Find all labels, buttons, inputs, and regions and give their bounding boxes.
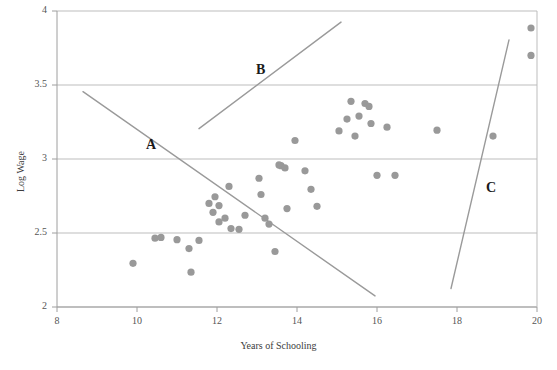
data-point [373, 172, 380, 179]
reference-line-label-b: B [256, 62, 265, 78]
x-axis-label: Years of Schooling [0, 340, 557, 351]
data-point [527, 52, 534, 59]
data-point [365, 103, 372, 110]
y-axis-label: Log Wage [15, 112, 26, 232]
data-point [313, 203, 320, 210]
data-point [433, 127, 440, 134]
data-point [271, 248, 278, 255]
chart-figure: Log Wage Years of Schooling 22.533.54810… [0, 0, 557, 370]
data-point [205, 200, 212, 207]
data-point [195, 237, 202, 244]
y-axis-label-container: Log Wage [2, 118, 22, 238]
data-point [255, 175, 262, 182]
data-point [283, 205, 290, 212]
data-point [221, 215, 228, 222]
data-point [185, 245, 192, 252]
reference-line-b [199, 22, 341, 129]
data-point [527, 24, 534, 31]
data-point [335, 127, 342, 134]
data-point [157, 234, 164, 241]
x-tick-label: 10 [117, 315, 157, 326]
y-tick-label: 3 [5, 152, 47, 163]
figure-caption [0, 361, 557, 370]
data-point [227, 225, 234, 232]
data-point [261, 215, 268, 222]
y-tick-label: 2 [5, 300, 47, 311]
data-point [367, 120, 374, 127]
data-point [225, 183, 232, 190]
data-point [187, 269, 194, 276]
data-point [291, 137, 298, 144]
x-tick-label: 18 [437, 315, 477, 326]
data-point [209, 209, 216, 216]
y-tick-label: 2.5 [5, 226, 47, 237]
data-point [351, 132, 358, 139]
data-point [391, 172, 398, 179]
reference-line-c [451, 40, 509, 289]
data-point [173, 236, 180, 243]
x-tick-label: 16 [357, 315, 397, 326]
x-tick-label: 8 [37, 315, 77, 326]
data-point [343, 115, 350, 122]
y-tick-label: 4 [5, 4, 47, 15]
data-point [215, 218, 222, 225]
data-point [355, 112, 362, 119]
data-point [129, 260, 136, 267]
data-point [235, 226, 242, 233]
data-point [307, 186, 314, 193]
reference-line-a [83, 92, 375, 296]
y-tick-label: 3.5 [5, 78, 47, 89]
x-tick-label: 20 [517, 315, 557, 326]
reference-line-label-a: A [146, 137, 156, 153]
data-point [301, 167, 308, 174]
data-point [383, 124, 390, 131]
data-point [347, 98, 354, 105]
x-tick-label: 12 [197, 315, 237, 326]
data-point [211, 193, 218, 200]
data-point [489, 132, 496, 139]
data-point [265, 221, 272, 228]
x-tick-label: 14 [277, 315, 317, 326]
data-point [215, 202, 222, 209]
reference-line-label-c: C [486, 180, 496, 196]
data-point [241, 212, 248, 219]
data-point [281, 164, 288, 171]
data-point [257, 191, 264, 198]
